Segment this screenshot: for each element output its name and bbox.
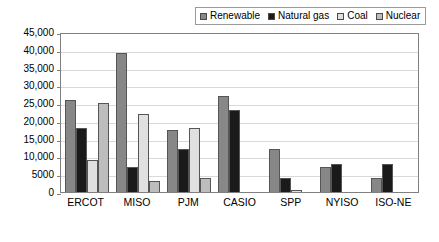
y-tick-label: 0 [48, 188, 54, 198]
bar [167, 130, 178, 192]
legend-swatch-natural-gas [268, 13, 275, 20]
bar [269, 149, 280, 192]
bar-group [214, 34, 265, 192]
x-tick-label: CASIO [214, 196, 265, 209]
bar [382, 164, 393, 192]
legend-swatch-renewable [200, 13, 207, 20]
x-tick-label: ERCOT [60, 196, 111, 209]
bar [76, 128, 87, 192]
bar [189, 128, 200, 192]
legend-entry-natural-gas: Natural gas [268, 10, 329, 22]
bar [291, 190, 302, 192]
bar [320, 167, 331, 192]
legend-swatch-nuclear [376, 13, 383, 20]
plot-area [60, 33, 419, 193]
y-tick-label: 25,000 [23, 99, 54, 109]
legend-entry-nuclear: Nuclear [376, 10, 420, 22]
bar [218, 96, 229, 192]
bar-group [367, 34, 418, 192]
legend-swatch-coal [337, 13, 344, 20]
bar [280, 178, 291, 192]
bar [229, 110, 240, 192]
legend-entry-coal: Coal [337, 10, 368, 22]
x-tick-label: PJM [163, 196, 214, 209]
y-tick-label: 35,000 [23, 64, 54, 74]
legend-label-nuclear: Nuclear [386, 10, 420, 22]
bar [127, 167, 138, 192]
x-tick-label: SPP [265, 196, 316, 209]
bar [371, 178, 382, 192]
bar [116, 53, 127, 192]
legend-label-renewable: Renewable [210, 10, 260, 22]
legend-label-coal: Coal [347, 10, 368, 22]
chart-legend: Renewable Natural gas Coal Nuclear [195, 7, 426, 25]
bar [98, 103, 109, 192]
y-tick-label: 15,000 [23, 135, 54, 145]
x-tick-label: NYISO [316, 196, 367, 209]
bar [138, 114, 149, 192]
bar [65, 100, 76, 192]
bar [178, 149, 189, 192]
y-tick-label: 45,000 [23, 28, 54, 38]
bar [87, 160, 98, 192]
plot-wrapper: 0500010,00015,00020,00025,00030,00035,00… [0, 33, 439, 242]
y-tick-label: 20,000 [23, 117, 54, 127]
y-tick-mark [57, 194, 61, 195]
bar-group [163, 34, 214, 192]
bar [331, 164, 342, 192]
bar [149, 181, 160, 192]
y-tick-label: 10,000 [23, 152, 54, 162]
y-tick-label: 5000 [32, 170, 54, 180]
y-axis: 0500010,00015,00020,00025,00030,00035,00… [0, 33, 58, 193]
x-tick-label: MISO [111, 196, 162, 209]
x-tick-label: ISO-NE [368, 196, 419, 209]
bar-group [61, 34, 112, 192]
bar-group [265, 34, 316, 192]
bar-group [112, 34, 163, 192]
bar-group [316, 34, 367, 192]
bar-chart: Renewable Natural gas Coal Nuclear 05000… [0, 0, 439, 242]
x-axis: ERCOTMISOPJMCASIOSPPNYISOISO-NE [60, 196, 419, 209]
bar-groups [61, 34, 418, 192]
y-tick-label: 30,000 [23, 81, 54, 91]
legend-entry-renewable: Renewable [200, 10, 260, 22]
legend-label-natural-gas: Natural gas [278, 10, 329, 22]
bar [200, 178, 211, 192]
y-tick-label: 40,000 [23, 46, 54, 56]
